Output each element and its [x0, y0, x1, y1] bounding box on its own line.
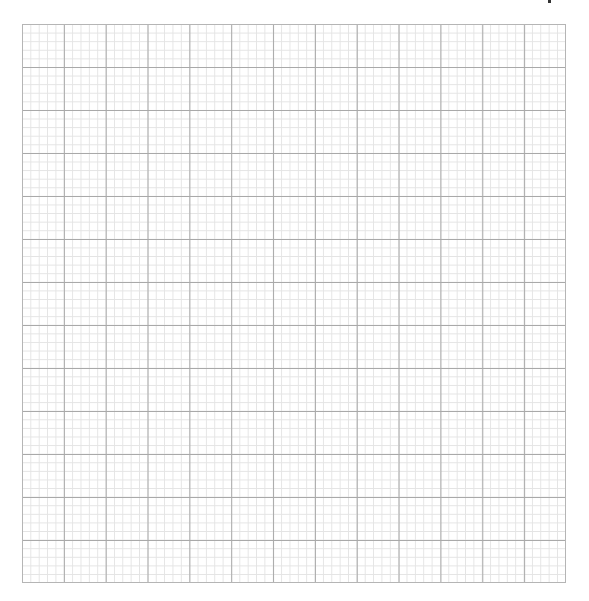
graph-paper-grid: [22, 24, 566, 583]
page-corner-mark: [548, 0, 551, 3]
